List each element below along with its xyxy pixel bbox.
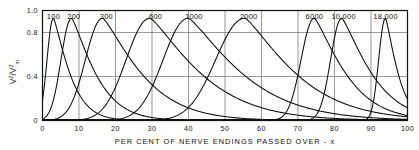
curve-value-labels: 10020030060010002000600010,00018,000 <box>47 12 398 21</box>
x-tick-label: 20 <box>111 124 120 133</box>
y-tick-label: 0 <box>34 116 38 125</box>
x-tick-label: 60 <box>257 124 266 133</box>
curve-label-100: 100 <box>47 12 60 21</box>
x-tick-label: 70 <box>294 124 303 133</box>
svg-text:V2/V2m: V2/V2m <box>8 59 20 84</box>
y-tick-label: 0.4 <box>27 72 38 81</box>
x-axis-tick-labels: 0102030405060708090100 <box>40 124 414 133</box>
x-tick-label: 40 <box>184 124 193 133</box>
y-tick-label: 0.8 <box>27 28 38 37</box>
x-axis-title: PER CENT OF NERVE ENDINGS PASSED OVER - … <box>115 137 335 146</box>
x-tick-label: 10 <box>75 124 84 133</box>
y-axis-title-denominator-subscript: m <box>14 59 20 64</box>
curve-label-300: 300 <box>100 12 113 21</box>
y-axis-title: V2/V2m <box>8 59 20 84</box>
y-tick-label: 1.0 <box>27 6 38 15</box>
x-tick-label: 0 <box>40 124 44 133</box>
x-tick-label: 90 <box>367 124 376 133</box>
figure-container: 0102030405060708090100 00.40.81.0 100200… <box>0 0 419 150</box>
curve-label-600: 600 <box>149 12 162 21</box>
y-axis-tick-labels: 00.40.81.0 <box>27 6 38 125</box>
curve-label-200: 200 <box>67 12 80 21</box>
curve-label-10000: 10,000 <box>331 12 355 21</box>
x-tick-label: 100 <box>401 124 414 133</box>
x-tick-label: 30 <box>148 124 157 133</box>
curve-label-1000: 1000 <box>185 12 203 21</box>
nerve-endings-response-chart: 0102030405060708090100 00.40.81.0 100200… <box>0 0 419 150</box>
grid-lines <box>43 11 408 121</box>
curve-label-2000: 2000 <box>240 12 258 21</box>
x-tick-label: 80 <box>330 124 339 133</box>
x-tick-label: 50 <box>221 124 230 133</box>
curve-label-18000: 18,000 <box>373 12 397 21</box>
curve-label-6000: 6000 <box>306 12 324 21</box>
